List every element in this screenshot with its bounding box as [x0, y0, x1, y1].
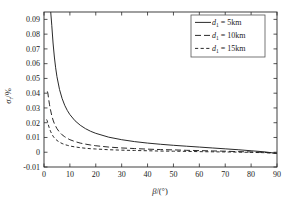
- y-tick-label: 0.01: [26, 133, 40, 142]
- svg-text:β/(°): β/(°): [151, 186, 168, 196]
- x-tick-label: 40: [144, 170, 152, 179]
- y-tick-label: 0.04: [26, 89, 40, 98]
- x-tick-label: 30: [118, 170, 126, 179]
- x-tick-label: 80: [247, 170, 255, 179]
- svg-text:σr/%: σr/%: [3, 88, 14, 104]
- x-tick-label: 0: [42, 170, 46, 179]
- y-tick-label: 0.08: [26, 30, 40, 39]
- line-chart: -0.0100.010.020.030.040.050.060.070.080.…: [0, 0, 292, 207]
- x-tick-label: 20: [92, 170, 100, 179]
- y-tick-label: 0.07: [26, 45, 40, 54]
- x-axis-title: β/(°): [151, 186, 168, 196]
- chart-figure: -0.0100.010.020.030.040.050.060.070.080.…: [0, 0, 292, 207]
- chart-legend: d1 = 5kmd1 = 10kmd1 = 15km: [191, 15, 265, 57]
- y-axis-title: σr/%: [3, 88, 14, 104]
- y-tick-label: 0.03: [26, 104, 40, 113]
- y-tick-label: 0.09: [26, 15, 40, 24]
- y-tick-label: 0.06: [26, 59, 40, 68]
- x-tick-label: 60: [195, 170, 203, 179]
- y-tick-label: -0.01: [23, 163, 40, 172]
- y-tick-label: 0.05: [26, 74, 40, 83]
- x-tick-label: 10: [66, 170, 74, 179]
- y-tick-label: 0: [36, 148, 40, 157]
- x-tick-label: 50: [169, 170, 177, 179]
- x-tick-label: 70: [221, 170, 229, 179]
- x-tick-label: 90: [273, 170, 281, 179]
- y-tick-label: 0.02: [26, 119, 40, 128]
